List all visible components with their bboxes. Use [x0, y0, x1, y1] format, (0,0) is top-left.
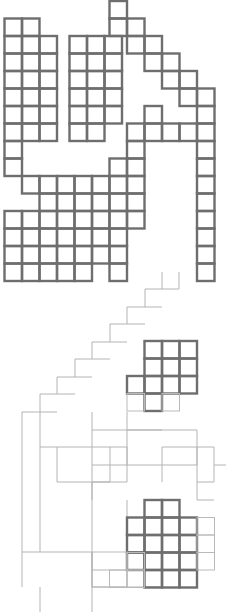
- grid-diagram-canvas: [0, 0, 226, 612]
- thin-connector-paths: [22, 272, 226, 612]
- thin-grid-cells: [92, 394, 226, 588]
- grid-maze-svg: [0, 0, 226, 612]
- thick-grid-cells: [5, 1, 215, 588]
